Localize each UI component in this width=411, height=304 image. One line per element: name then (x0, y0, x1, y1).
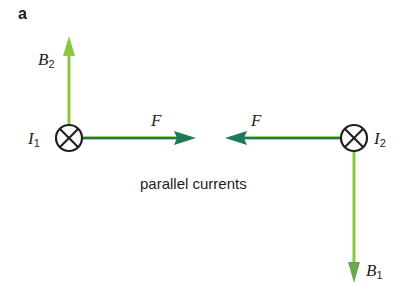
label-force-left: F (151, 112, 161, 129)
label-i2-subscript: 2 (380, 137, 386, 149)
label-b1: B1 (366, 262, 383, 281)
conductor-i2-into-page-icon (341, 125, 367, 151)
label-b1-symbol: B (366, 261, 376, 280)
diagram-svg (0, 0, 411, 304)
conductor-i1-into-page-icon (56, 125, 82, 151)
label-i1: I1 (28, 130, 40, 149)
label-b1-subscript: 1 (376, 269, 382, 281)
b1-field-arrow (348, 151, 360, 283)
label-b2-symbol: B (38, 50, 48, 69)
b2-field-arrow (63, 36, 75, 125)
label-b2-subscript: 2 (48, 58, 54, 70)
panel-label: a (18, 5, 27, 23)
label-i2: I2 (374, 130, 386, 149)
force-arrow-right (82, 131, 196, 145)
label-force-right: F (251, 112, 261, 129)
label-i1-subscript: 1 (34, 137, 40, 149)
label-b2: B2 (38, 51, 55, 70)
caption: parallel currents (140, 175, 247, 192)
diagram: a B2 F F I1 I2 B1 parallel currents (0, 0, 411, 304)
force-arrow-left (225, 131, 341, 145)
